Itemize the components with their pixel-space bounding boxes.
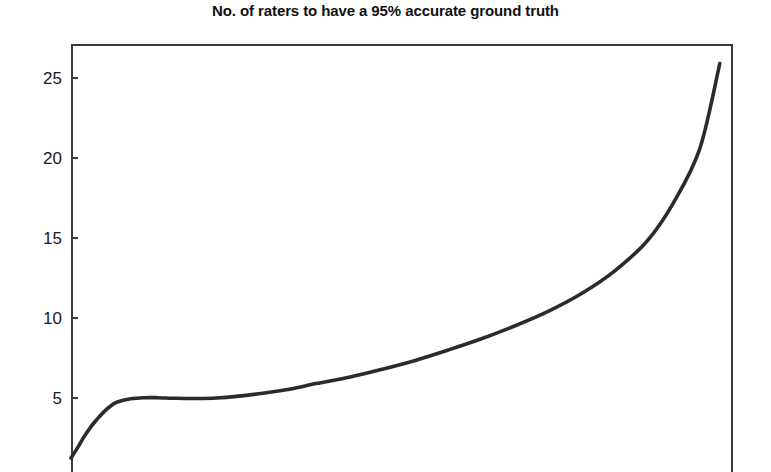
y-tick-label-15: 15 [22, 230, 62, 247]
chart-title: No. of raters to have a 95% accurate gro… [0, 2, 771, 19]
chart-figure: No. of raters to have a 95% accurate gro… [0, 0, 771, 472]
y-axis-tick-labels: 25 20 15 10 5 [22, 0, 62, 472]
data-series-line [71, 64, 720, 458]
y-tick-label-10: 10 [22, 310, 62, 327]
y-tick-label-5: 5 [22, 390, 62, 407]
data-curve-svg [71, 44, 733, 472]
y-tick-label-20: 20 [22, 150, 62, 167]
y-tick-label-25: 25 [22, 70, 62, 87]
